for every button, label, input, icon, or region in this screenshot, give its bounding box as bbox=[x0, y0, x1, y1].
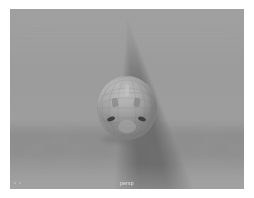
grid-major-lines bbox=[10, 16, 244, 20]
sphere-object[interactable] bbox=[97, 76, 157, 142]
camera-name-label: persp bbox=[10, 180, 244, 186]
application-window: x z persp bbox=[0, 0, 254, 198]
perspective-viewport[interactable]: x z persp bbox=[10, 9, 244, 189]
crest-marking bbox=[125, 84, 129, 97]
brow-left-marking bbox=[111, 98, 118, 108]
muzzle-marking bbox=[118, 120, 136, 133]
sphere-body[interactable] bbox=[97, 76, 157, 140]
brow-right-marking bbox=[133, 98, 140, 108]
